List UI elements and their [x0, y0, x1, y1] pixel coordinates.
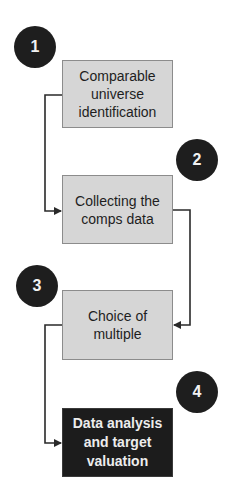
- step-2-label: Collecting the comps data: [71, 192, 164, 228]
- flowchart: 1 Comparable universe identification 2 C…: [0, 0, 228, 499]
- step-3-label: Choice of multiple: [84, 307, 151, 343]
- connector-1-to-2: [45, 95, 62, 211]
- connector-2-to-3: [173, 210, 190, 325]
- step-4-number-badge: 4: [176, 371, 218, 413]
- step-4-label: Data analysis and target valuation: [69, 414, 167, 471]
- step-4-number: 4: [193, 383, 202, 401]
- step-1-box: Comparable universe identification: [62, 60, 173, 128]
- step-3-number: 3: [33, 277, 42, 295]
- step-4-box: Data analysis and target valuation: [62, 408, 173, 477]
- step-1-number-badge: 1: [14, 26, 56, 68]
- connector-3-to-4: [45, 325, 62, 443]
- step-2-number-badge: 2: [176, 139, 218, 181]
- step-2-box: Collecting the comps data: [62, 175, 173, 244]
- step-3-box: Choice of multiple: [62, 290, 173, 360]
- step-1-number: 1: [31, 38, 40, 56]
- step-3-number-badge: 3: [16, 265, 58, 307]
- step-1-label: Comparable universe identification: [75, 67, 161, 121]
- step-2-number: 2: [193, 151, 202, 169]
